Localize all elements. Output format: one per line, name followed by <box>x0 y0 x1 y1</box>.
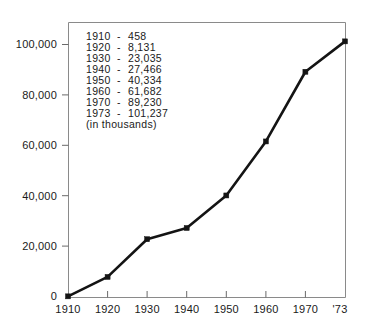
data-point-1960 <box>263 139 268 144</box>
data-point-1950 <box>224 193 229 198</box>
chart-canvas: 100,000 80,000 60,000 40,000 20,000 0 19… <box>0 0 369 331</box>
data-point-1920 <box>105 274 110 279</box>
data-point-1940 <box>184 226 189 231</box>
data-point-1970 <box>303 69 308 74</box>
x-axis-label-1930: 1930 <box>134 303 159 315</box>
x-axis-label-1920: 1920 <box>95 303 120 315</box>
x-axis-ticks <box>108 291 306 298</box>
annot-units-note: (in thousands) <box>86 118 157 130</box>
data-point-1910 <box>66 294 71 299</box>
x-axis-label-1960: 1960 <box>253 303 278 315</box>
y-axis-label-20000: 20,000 <box>22 240 57 252</box>
line-chart: 100,000 80,000 60,000 40,000 20,000 0 19… <box>0 0 369 331</box>
x-axis-label-1950: 1950 <box>214 303 239 315</box>
y-axis-label-0: 0 <box>51 290 57 302</box>
data-point-1973 <box>343 39 348 44</box>
x-axis-label-1970: 1970 <box>293 303 318 315</box>
x-axis-label-1910: 1910 <box>55 303 80 315</box>
y-axis-labels: 100,000 80,000 60,000 40,000 20,000 0 <box>16 38 57 302</box>
y-axis-label-100000: 100,000 <box>16 38 57 50</box>
y-axis-label-80000: 80,000 <box>22 89 57 101</box>
y-axis-label-60000: 60,000 <box>22 139 57 151</box>
x-axis-labels: 1910 1920 1930 1940 1950 1960 1970 '73 <box>55 303 347 315</box>
x-axis-label-1973: '73 <box>333 303 348 315</box>
annotation-data-table: 1910 - 458 1920 - 8,131 1930 - 23,035 19… <box>86 30 168 130</box>
data-point-1930 <box>145 237 150 242</box>
y-axis-ticks <box>62 45 69 247</box>
y-axis-label-40000: 40,000 <box>22 190 57 202</box>
x-axis-label-1940: 1940 <box>174 303 199 315</box>
